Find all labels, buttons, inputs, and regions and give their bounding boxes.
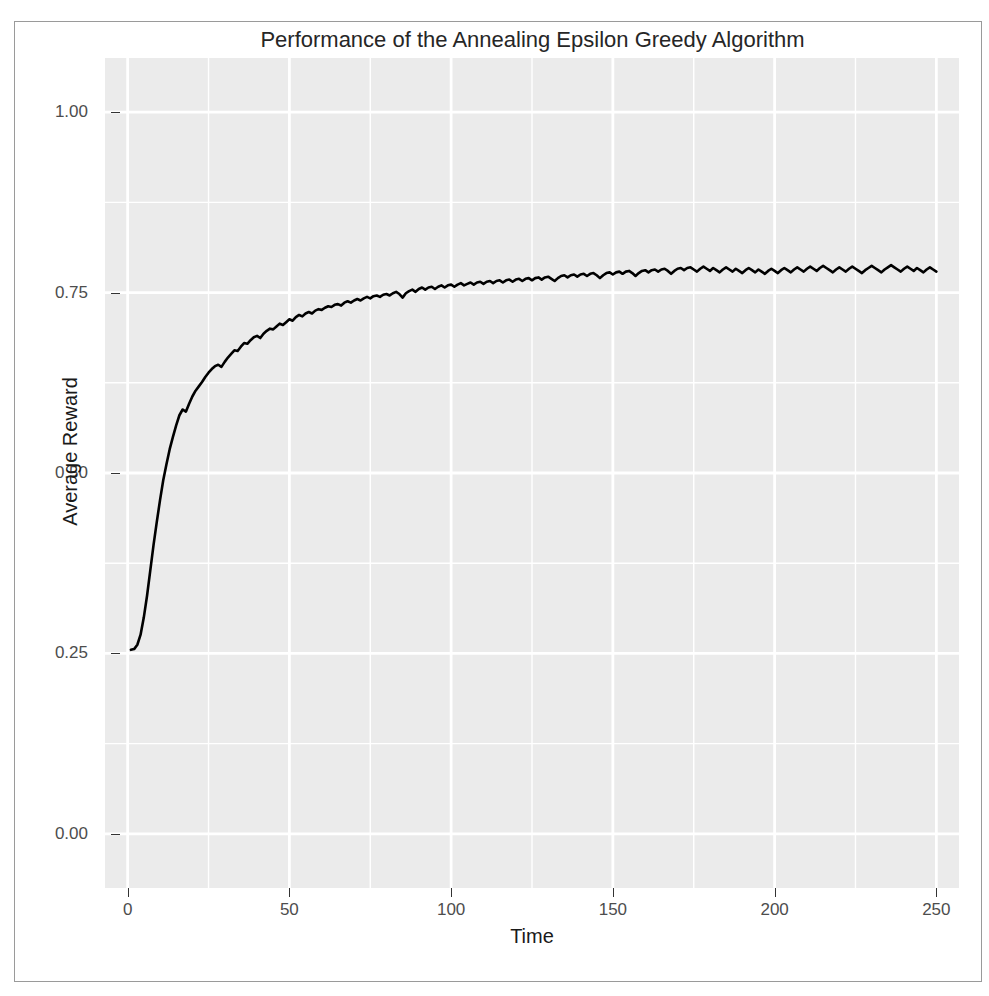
x-tick-mark: [775, 888, 776, 897]
y-tick-mark: [111, 112, 120, 113]
x-tick-label: 250: [896, 900, 976, 920]
y-axis-title-wrapper: Average Reward: [30, 0, 60, 996]
x-tick-mark: [613, 888, 614, 897]
x-tick-mark: [128, 888, 129, 897]
plot-panel: [105, 58, 959, 888]
y-tick-mark: [111, 473, 120, 474]
data-line-annealing-epsilon-greedy: [131, 265, 936, 650]
y-tick-mark: [111, 293, 120, 294]
x-axis-title: Time: [105, 925, 959, 948]
plot-canvas: [105, 58, 959, 888]
x-tick-label: 150: [573, 900, 653, 920]
y-axis-title: Average Reward: [59, 352, 82, 552]
x-tick-label: 100: [411, 900, 491, 920]
x-tick-mark: [289, 888, 290, 897]
x-tick-label: 50: [249, 900, 329, 920]
x-tick-mark: [936, 888, 937, 897]
x-axis-tick-labels: 050100150200250: [105, 888, 959, 928]
x-tick-label: 0: [88, 900, 168, 920]
chart-figure: Performance of the Annealing Epsilon Gre…: [0, 0, 989, 996]
x-tick-mark: [451, 888, 452, 897]
y-tick-mark: [111, 834, 120, 835]
y-tick-mark: [111, 653, 120, 654]
x-tick-label: 200: [735, 900, 815, 920]
chart-title: Performance of the Annealing Epsilon Gre…: [105, 25, 960, 55]
